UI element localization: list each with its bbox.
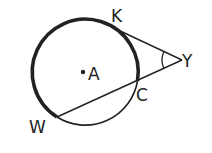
secant-segment-wy bbox=[57, 60, 182, 117]
center-point-a bbox=[81, 70, 85, 74]
label-y: Y bbox=[181, 51, 193, 71]
tangent-segment-ky bbox=[116, 29, 182, 60]
label-c: C bbox=[136, 85, 148, 105]
minor-arc-wc bbox=[57, 81, 138, 125]
label-a: A bbox=[88, 64, 100, 84]
angle-mark-y bbox=[162, 52, 164, 69]
label-w: W bbox=[29, 117, 46, 137]
major-arc-wkc bbox=[32, 19, 138, 117]
label-k: K bbox=[111, 6, 123, 26]
circle-tangent-secant-diagram: K Y A C W bbox=[0, 0, 212, 153]
